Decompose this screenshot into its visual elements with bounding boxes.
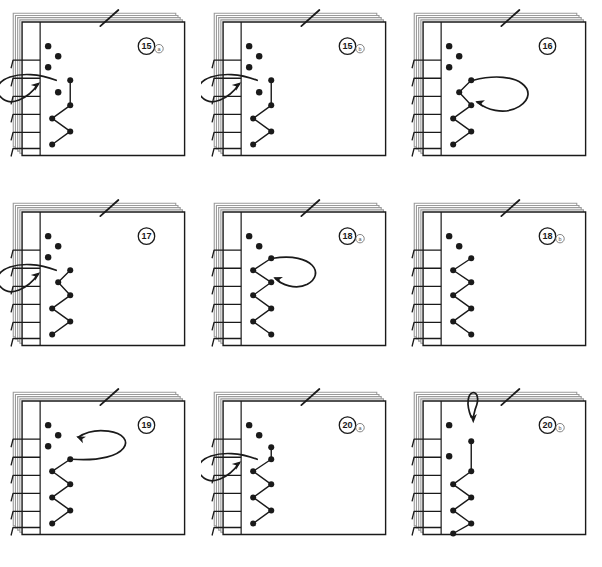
unsewn-hole-dot xyxy=(45,443,51,449)
front-cover-sheet xyxy=(423,22,586,155)
front-cover-sheet xyxy=(22,401,185,534)
unsewn-hole-dot xyxy=(55,89,61,95)
unsewn-hole-dot xyxy=(256,243,262,249)
step-panel: 19 xyxy=(0,379,201,567)
sewn-hole-dot xyxy=(49,141,55,147)
step-illustration: 15b xyxy=(201,0,402,190)
front-cover-sheet xyxy=(423,401,586,534)
sewn-hole-dot xyxy=(250,267,256,273)
sewn-hole-dot xyxy=(450,292,456,298)
step-suffix: b xyxy=(559,235,562,241)
step-number: 18 xyxy=(543,231,553,241)
instruction-panel-grid: 15a15b161718a18b1920a20b xyxy=(0,0,602,567)
sewn-hole-dot xyxy=(450,318,456,324)
sewn-hole-dot xyxy=(268,305,274,311)
unsewn-hole-dot xyxy=(45,233,51,239)
sewn-hole-dot xyxy=(67,77,73,83)
unsewn-hole-dot xyxy=(45,254,51,260)
front-cover-sheet xyxy=(22,22,185,155)
unsewn-hole-dot xyxy=(446,422,452,428)
step-number: 20 xyxy=(342,421,352,431)
unsewn-hole-dot xyxy=(446,43,452,49)
unsewn-hole-dot xyxy=(456,53,462,59)
front-cover-sheet xyxy=(22,212,185,345)
unsewn-hole-dot xyxy=(246,233,252,239)
unsewn-hole-dot xyxy=(246,43,252,49)
sewn-hole-dot xyxy=(268,279,274,285)
step-number: 15 xyxy=(342,41,352,51)
sewn-hole-dot xyxy=(469,102,475,108)
unsewn-hole-dot xyxy=(45,422,51,428)
sewn-hole-dot xyxy=(250,318,256,324)
step-panel: 15b xyxy=(201,0,402,190)
step-number: 15 xyxy=(141,41,151,51)
sewn-hole-dot xyxy=(67,267,73,273)
step-panel: 16 xyxy=(401,0,602,190)
unsewn-hole-dot xyxy=(256,53,262,59)
sewn-hole-dot xyxy=(469,128,475,134)
front-cover-sheet xyxy=(423,212,586,345)
step-illustration: 15a xyxy=(0,0,201,190)
step-illustration: 19 xyxy=(0,379,201,567)
sewn-hole-dot xyxy=(469,521,475,527)
sewn-hole-dot xyxy=(469,305,475,311)
sewn-hole-dot xyxy=(469,495,475,501)
front-cover-sheet xyxy=(223,401,386,534)
step-number: 18 xyxy=(342,231,352,241)
step-panel: 18b xyxy=(401,190,602,380)
step-number: 16 xyxy=(543,41,553,51)
step-panel: 18a xyxy=(201,190,402,380)
unsewn-hole-dot xyxy=(446,453,452,459)
step-illustration: 20a xyxy=(201,379,402,567)
sewn-hole-dot xyxy=(268,482,274,488)
step-number: 17 xyxy=(141,231,151,241)
sewn-hole-dot xyxy=(250,495,256,501)
unsewn-hole-dot xyxy=(446,64,452,70)
step-panel: 17 xyxy=(0,190,201,380)
step-panel: 20b xyxy=(401,379,602,567)
sewn-hole-dot xyxy=(268,508,274,514)
sewn-hole-dot xyxy=(67,482,73,488)
step-panel: 20a xyxy=(201,379,402,567)
sewn-hole-dot xyxy=(268,77,274,83)
unsewn-hole-dot xyxy=(55,243,61,249)
sewn-hole-dot xyxy=(67,292,73,298)
step-illustration: 18a xyxy=(201,190,402,380)
sewn-hole-dot xyxy=(469,279,475,285)
sewn-hole-dot xyxy=(450,141,456,147)
sewn-hole-dot xyxy=(49,305,55,311)
sewn-hole-dot xyxy=(250,469,256,475)
unsewn-hole-dot xyxy=(55,53,61,59)
sewn-hole-dot xyxy=(268,128,274,134)
unsewn-hole-dot xyxy=(55,432,61,438)
sewn-hole-dot xyxy=(250,521,256,527)
sewn-hole-dot xyxy=(49,331,55,337)
unsewn-hole-dot xyxy=(45,64,51,70)
sewn-hole-dot xyxy=(450,508,456,514)
sewn-hole-dot xyxy=(469,469,475,475)
sewn-hole-dot xyxy=(49,115,55,121)
sewn-hole-dot xyxy=(469,331,475,337)
sewn-hole-dot xyxy=(450,531,456,537)
step-suffix: b xyxy=(559,425,562,431)
sewn-hole-dot xyxy=(457,89,463,95)
unsewn-hole-dot xyxy=(256,89,262,95)
sewn-hole-dot xyxy=(469,438,475,444)
step-illustration: 20b xyxy=(401,379,602,567)
front-cover-sheet xyxy=(223,22,386,155)
unsewn-hole-dot xyxy=(246,422,252,428)
sewn-hole-dot xyxy=(250,292,256,298)
sewn-hole-dot xyxy=(67,128,73,134)
sewn-hole-dot xyxy=(450,115,456,121)
sewn-hole-dot xyxy=(250,141,256,147)
step-illustration: 18b xyxy=(401,190,602,380)
sewn-hole-dot xyxy=(450,482,456,488)
step-illustration: 16 xyxy=(401,0,602,190)
sewn-hole-dot xyxy=(55,279,61,285)
step-panel: 15a xyxy=(0,0,201,190)
front-cover-sheet xyxy=(223,212,386,345)
unsewn-hole-dot xyxy=(446,233,452,239)
unsewn-hole-dot xyxy=(256,432,262,438)
sewn-hole-dot xyxy=(49,521,55,527)
unsewn-hole-dot xyxy=(45,43,51,49)
